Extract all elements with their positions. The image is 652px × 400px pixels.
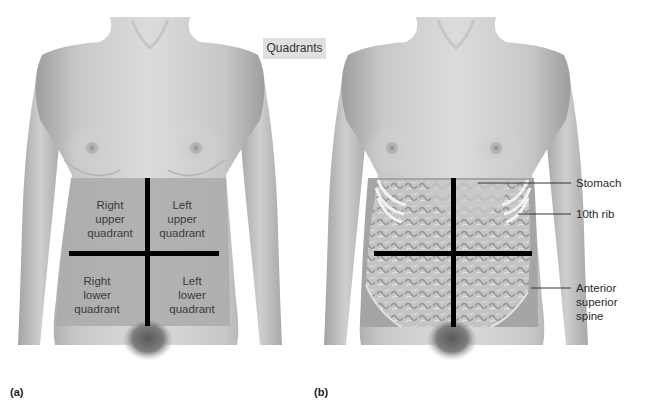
quadrants-badge: Quadrants: [263, 38, 326, 59]
callout-line: spine: [576, 309, 618, 323]
label-right-lower-quadrant: Right lower quadrant: [57, 274, 137, 316]
label-line: quadrant: [152, 302, 232, 316]
callout-line: superior: [576, 295, 618, 309]
label-line: quadrant: [70, 226, 150, 240]
label-left-lower-quadrant: Left lower quadrant: [152, 274, 232, 316]
midline-horizontal-a: [69, 251, 219, 256]
label-line: lower: [152, 288, 232, 302]
label-line: quadrant: [142, 226, 222, 240]
label-line: Left: [142, 198, 222, 212]
callout-stomach: Stomach: [576, 176, 621, 190]
callout-anterior-superior-spine: Anterior superior spine: [576, 281, 618, 323]
midline-horizontal-b: [374, 251, 532, 256]
label-line: upper: [70, 212, 150, 226]
anatomy-figure: Quadrants Right upper quadrant Left uppe…: [0, 0, 652, 400]
label-line: Right: [57, 274, 137, 288]
panel-label-a: (a): [10, 386, 23, 398]
label-line: Left: [152, 274, 232, 288]
label-line: upper: [142, 212, 222, 226]
label-right-upper-quadrant: Right upper quadrant: [70, 198, 150, 240]
callout-10th-rib: 10th rib: [576, 207, 614, 221]
callout-line: Anterior: [576, 281, 618, 295]
label-line: lower: [57, 288, 137, 302]
panel-label-b: (b): [314, 386, 328, 398]
label-line: quadrant: [57, 302, 137, 316]
label-left-upper-quadrant: Left upper quadrant: [142, 198, 222, 240]
label-line: Right: [70, 198, 150, 212]
